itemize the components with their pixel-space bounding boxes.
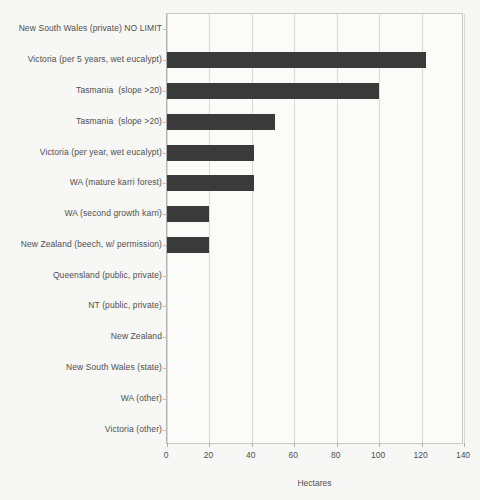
value-axis-labels: 020406080100120140 <box>0 450 480 464</box>
category-label: New South Wales (state) <box>2 362 162 372</box>
category-label: New Zealand (beech, w/ permission) <box>2 239 162 249</box>
bar <box>167 83 379 99</box>
category-axis-tick <box>163 430 167 431</box>
gridline-80 <box>337 14 338 443</box>
value-axis-tick-40 <box>252 443 253 447</box>
category-label: WA (other) <box>2 393 162 403</box>
value-axis-label-80: 80 <box>316 450 356 460</box>
value-axis-label-0: 0 <box>146 450 186 460</box>
category-label: Tasmania (slope >20) <box>2 85 162 95</box>
bar <box>167 206 209 222</box>
bar <box>167 114 275 130</box>
bar-chart: New South Wales (private) NO LIMITVictor… <box>0 0 480 500</box>
value-axis-tick-60 <box>294 443 295 447</box>
value-axis-tick-100 <box>379 443 380 447</box>
category-label: Victoria (other) <box>2 424 162 434</box>
value-axis-label-100: 100 <box>358 450 398 460</box>
category-axis-tick <box>163 368 167 369</box>
value-axis-label-40: 40 <box>231 450 271 460</box>
category-label: New South Wales (private) NO LIMIT <box>2 23 162 33</box>
value-axis-tick-20 <box>209 443 210 447</box>
category-axis-tick <box>163 276 167 277</box>
category-label: Victoria (per year, wet eucalypt) <box>2 147 162 157</box>
category-axis-tick <box>163 337 167 338</box>
category-label: Queensland (public, private) <box>2 270 162 280</box>
plot-area <box>166 13 463 444</box>
bar <box>167 237 209 253</box>
gridline-40 <box>252 14 253 443</box>
gridline-100 <box>379 14 380 443</box>
value-axis-title: Hectares <box>166 478 463 488</box>
value-axis-label-140: 140 <box>443 450 480 460</box>
value-axis-tick-80 <box>337 443 338 447</box>
category-axis-labels: New South Wales (private) NO LIMITVictor… <box>0 13 162 444</box>
gridline-0 <box>167 14 168 443</box>
category-label: WA (mature karri forest) <box>2 177 162 187</box>
value-axis-tick-140 <box>464 443 465 447</box>
bar <box>167 52 426 68</box>
category-axis-tick <box>163 306 167 307</box>
gridline-60 <box>294 14 295 443</box>
value-axis-label-60: 60 <box>273 450 313 460</box>
bar <box>167 175 254 191</box>
value-axis-label-120: 120 <box>401 450 441 460</box>
gridline-140 <box>464 14 465 443</box>
category-label: NT (public, private) <box>2 300 162 310</box>
category-label: New Zealand <box>2 331 162 341</box>
value-axis-tick-120 <box>422 443 423 447</box>
category-axis-tick <box>163 29 167 30</box>
bar <box>167 145 254 161</box>
category-label: Victoria (per 5 years, wet eucalypt) <box>2 54 162 64</box>
category-label: Tasmania (slope >20) <box>2 116 162 126</box>
category-label: WA (second growth karri) <box>2 208 162 218</box>
gridline-20 <box>209 14 210 443</box>
value-axis-tick-0 <box>167 443 168 447</box>
value-axis-label-20: 20 <box>188 450 228 460</box>
gridline-120 <box>422 14 423 443</box>
category-axis-tick <box>163 399 167 400</box>
